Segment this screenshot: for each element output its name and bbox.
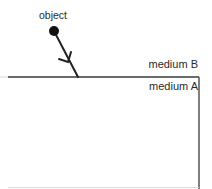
incident-ray bbox=[54, 31, 78, 77]
object-dot-icon bbox=[49, 26, 59, 36]
medium-a-label: medium A bbox=[149, 81, 198, 92]
medium-b-label: medium B bbox=[148, 59, 198, 70]
object-label: object bbox=[39, 10, 67, 21]
refraction-diagram: object medium B medium A bbox=[0, 0, 212, 189]
diagram-graphics bbox=[0, 0, 212, 189]
